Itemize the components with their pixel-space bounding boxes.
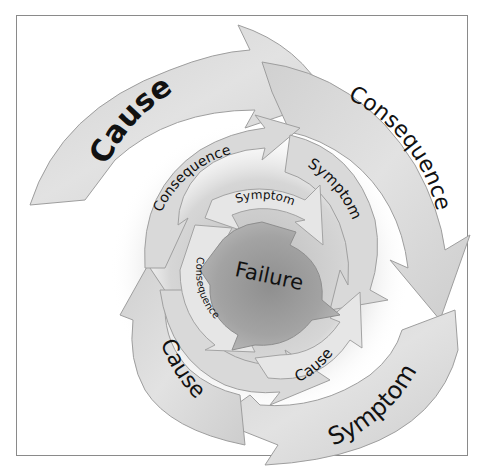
failure-cycle-diagram: Cause Consequence Symptom Cause Conseque… bbox=[0, 0, 496, 476]
